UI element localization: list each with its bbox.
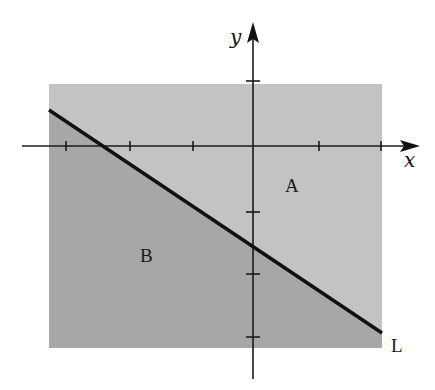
line-l-label: L xyxy=(391,335,403,356)
half-plane-diagram: y x L A B xyxy=(0,0,435,390)
x-axis-label: x xyxy=(404,148,415,172)
region-a-label: A xyxy=(285,175,299,196)
region-b-label: B xyxy=(140,245,153,266)
y-axis-label: y xyxy=(229,25,242,49)
